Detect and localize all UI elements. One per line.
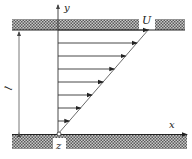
top-velocity-label: U xyxy=(142,14,152,27)
origin-label: z xyxy=(55,140,62,151)
gap-height-label: l xyxy=(3,85,14,91)
velocity-profile-line xyxy=(58,29,149,134)
origin-marker xyxy=(57,132,61,136)
top-plate xyxy=(12,19,185,30)
bottom-plate xyxy=(12,135,187,149)
velocity-arrows xyxy=(58,30,148,121)
x-axis-label: x xyxy=(169,119,175,130)
y-axis-label: y xyxy=(63,2,70,13)
couette-flow-diagram: y U x z l xyxy=(0,0,192,159)
